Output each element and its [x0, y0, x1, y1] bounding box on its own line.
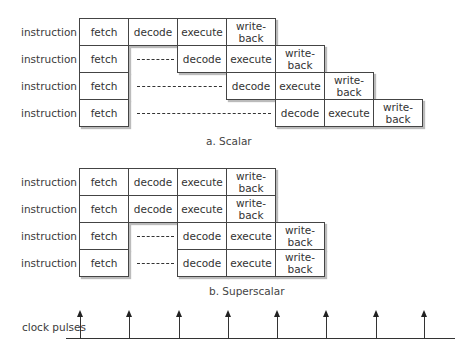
- stage-fetch: fetch: [79, 72, 129, 100]
- clock-pulse-arrow-icon: [129, 316, 130, 338]
- stage-execute: execute: [226, 222, 276, 250]
- time-axis: [66, 338, 455, 339]
- row-label: instruction 3: [21, 230, 87, 242]
- stage-execute: execute: [177, 18, 227, 46]
- clock-pulse-arrow-icon: [179, 316, 180, 338]
- row-label: instruction 2: [21, 53, 87, 65]
- stage-writeback: write- back: [324, 72, 374, 100]
- row-label: instruction 3: [21, 80, 87, 92]
- stage-fetch: fetch: [79, 18, 129, 46]
- stage-execute: execute: [226, 249, 276, 277]
- stage-fetch: fetch: [79, 222, 129, 250]
- clock-label: clock pulses: [22, 321, 86, 333]
- stage-decode: decode: [275, 99, 325, 127]
- stage-execute: execute: [324, 99, 374, 127]
- stage-execute: execute: [177, 168, 227, 196]
- clock-pulse-arrow-icon: [277, 316, 278, 338]
- superscalar-caption: b. Superscalar: [209, 285, 284, 297]
- clock-pulse-arrow-icon: [376, 316, 377, 338]
- stage-writeback: write- back: [275, 249, 325, 277]
- stage-decode: decode: [226, 72, 276, 100]
- clock-pulse-arrow-icon: [326, 316, 327, 338]
- clock-pulse-arrow-icon: [424, 316, 425, 338]
- stall-dashes: [137, 59, 174, 60]
- row-label: instruction 2: [21, 203, 87, 215]
- row-label: instruction 4: [21, 257, 87, 269]
- stage-decode: decode: [177, 249, 227, 277]
- stage-decode: decode: [177, 45, 227, 73]
- stage-fetch: fetch: [79, 168, 129, 196]
- stage-writeback: write- back: [226, 168, 276, 196]
- stall-dashes: [137, 86, 222, 87]
- scalar-caption: a. Scalar: [206, 135, 252, 147]
- clock-pulse-arrow-icon: [228, 316, 229, 338]
- stall-dashes: [137, 113, 271, 114]
- stage-fetch: fetch: [79, 249, 129, 277]
- row-label: instruction 1: [21, 176, 87, 188]
- stage-execute: execute: [275, 72, 325, 100]
- stage-writeback: write- back: [275, 222, 325, 250]
- stage-writeback: write- back: [226, 18, 276, 46]
- stall-dashes: [137, 263, 174, 264]
- stage-writeback: write- back: [373, 99, 423, 127]
- stage-writeback: write- back: [275, 45, 325, 73]
- stall-dashes: [137, 236, 174, 237]
- row-label: instruction 4: [21, 107, 87, 119]
- row-label: instruction 1: [21, 26, 87, 38]
- stage-writeback: write- back: [226, 195, 276, 223]
- stage-execute: execute: [177, 195, 227, 223]
- stage-execute: execute: [226, 45, 276, 73]
- stage-decode: decode: [177, 222, 227, 250]
- stage-fetch: fetch: [79, 45, 129, 73]
- stage-fetch: fetch: [79, 99, 129, 127]
- stage-decode: decode: [128, 195, 178, 223]
- stage-decode: decode: [128, 18, 178, 46]
- stage-fetch: fetch: [79, 195, 129, 223]
- stage-decode: decode: [128, 168, 178, 196]
- clock-pulse-arrow-icon: [80, 316, 81, 338]
